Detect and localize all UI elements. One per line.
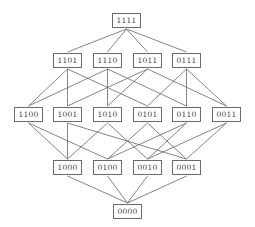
- edge-0011-0010: [148, 123, 227, 159]
- node-0101: 0101: [133, 107, 162, 122]
- edge-1101-1100: [29, 69, 68, 106]
- edge-1111-1101: [68, 29, 127, 52]
- edge-0111-0101: [148, 69, 187, 106]
- node-1101: 1101: [53, 53, 82, 68]
- edge-1110-0110: [108, 69, 187, 106]
- edge-1011-0011: [148, 69, 227, 106]
- edge-1010-1000: [68, 123, 108, 159]
- node-1100: 1100: [14, 107, 43, 122]
- node-0001: 0001: [172, 160, 201, 175]
- edge-0011-0001: [187, 123, 227, 159]
- node-0011: 0011: [212, 107, 241, 122]
- edge-0010-0000: [128, 176, 148, 203]
- node-1001: 1001: [53, 107, 82, 122]
- edge-0111-0011: [187, 69, 227, 106]
- node-0100: 0100: [93, 160, 122, 175]
- node-1111: 1111: [112, 13, 141, 28]
- node-0111: 0111: [172, 53, 201, 68]
- node-0010: 0010: [133, 160, 162, 175]
- edge-0001-0000: [128, 176, 187, 203]
- node-1110: 1110: [93, 53, 122, 68]
- edge-1111-0111: [127, 29, 187, 52]
- edge-1100-0100: [29, 123, 108, 159]
- edge-1111-1011: [127, 29, 148, 52]
- edge-0110-0100: [108, 123, 187, 159]
- edge-1000-0000: [68, 176, 128, 203]
- edge-1100-1000: [29, 123, 68, 159]
- edge-1011-1010: [108, 69, 148, 106]
- node-0000: 0000: [113, 204, 142, 219]
- hasse-diagram: 1111110111101011011111001001101001010110…: [0, 0, 255, 227]
- edge-1110-1100: [29, 69, 108, 106]
- node-0110: 0110: [172, 107, 201, 122]
- node-1011: 1011: [133, 53, 162, 68]
- node-1010: 1010: [93, 107, 122, 122]
- node-1000: 1000: [53, 160, 82, 175]
- edge-0100-0000: [108, 176, 128, 203]
